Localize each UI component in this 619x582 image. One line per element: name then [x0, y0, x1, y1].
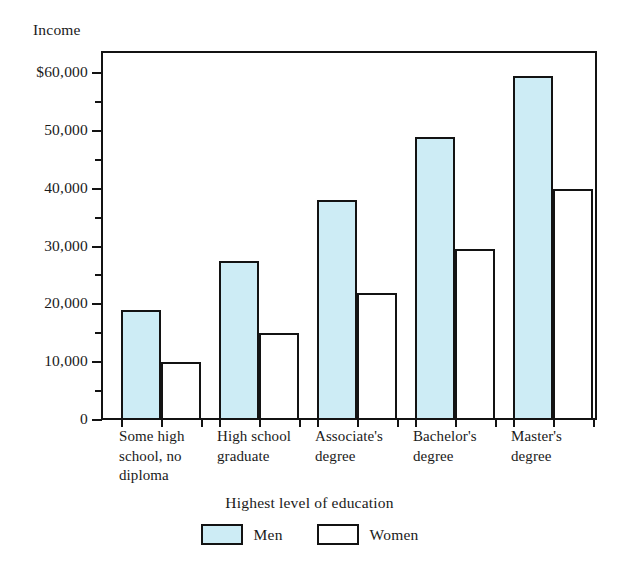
x-axis-category-line: High school	[217, 427, 311, 447]
y-axis-tick-label-text: 10,000	[44, 352, 88, 370]
x-axis-category-line: Some high	[119, 427, 213, 447]
x-axis-tick	[259, 420, 261, 427]
legend-entry-men[interactable]: Men	[201, 524, 283, 545]
x-axis-category-line: diploma	[119, 466, 213, 486]
bar-men-4	[513, 76, 553, 420]
legend-label-women: Women	[370, 526, 419, 544]
x-axis-category-line: Associate's	[315, 427, 409, 447]
x-axis-category-label-0: Some highschool, nodiploma	[119, 427, 213, 486]
x-axis-tick	[415, 420, 417, 427]
x-axis-tick	[121, 420, 123, 427]
bar-men-2	[317, 200, 357, 420]
x-axis-tick	[219, 420, 221, 427]
x-axis-category-label-2: Associate'sdegree	[315, 427, 409, 466]
x-axis-tick	[593, 420, 595, 427]
y-axis-tick-label-text: 40,000	[44, 179, 88, 197]
x-axis-category-line: Bachelor's	[413, 427, 507, 447]
x-axis-tick	[317, 420, 319, 427]
x-axis-tick	[161, 420, 163, 427]
legend-label-men: Men	[254, 526, 283, 544]
x-axis-tick	[397, 420, 399, 427]
chart-legend: MenWomen	[0, 524, 619, 545]
x-axis-tick	[455, 420, 457, 427]
x-axis-category-line: graduate	[217, 447, 311, 467]
x-axis-tick	[201, 420, 203, 427]
x-axis-category-line: Master's	[511, 427, 605, 447]
x-axis-category-line: degree	[315, 447, 409, 467]
x-axis-category-line: school, no	[119, 447, 213, 467]
y-axis-tick-label-text: $60,000	[36, 63, 88, 81]
x-axis-tick	[513, 420, 515, 427]
plot-area	[101, 73, 597, 420]
bar-chart: Income 010,00020,00030,00040,00050,000$6…	[0, 0, 619, 582]
x-axis-tick	[357, 420, 359, 427]
x-axis-category-line: degree	[511, 447, 605, 467]
bar-women-0	[161, 362, 201, 420]
x-axis-tick	[553, 420, 555, 427]
x-axis-category-label-1: High schoolgraduate	[217, 427, 311, 466]
x-axis-title: Highest level of education	[0, 494, 619, 512]
y-axis-title: Income	[33, 21, 81, 39]
bar-men-0	[121, 310, 161, 420]
x-axis-category-label-4: Master'sdegree	[511, 427, 605, 466]
legend-swatch-women	[317, 524, 359, 545]
x-axis-category-line: degree	[413, 447, 507, 467]
x-axis-tick	[299, 420, 301, 427]
y-axis-tick-label-text: 0	[80, 410, 88, 428]
bar-women-4	[553, 189, 593, 420]
y-axis-tick-label-text: 20,000	[44, 294, 88, 312]
y-axis-tick-label-text: 30,000	[44, 237, 88, 255]
x-axis-category-label-3: Bachelor'sdegree	[413, 427, 507, 466]
bar-women-2	[357, 293, 397, 420]
bar-women-3	[455, 249, 495, 420]
legend-swatch-men	[201, 524, 243, 545]
bar-men-3	[415, 137, 455, 420]
bar-women-1	[259, 333, 299, 420]
x-axis-tick	[495, 420, 497, 427]
bar-men-1	[219, 261, 259, 420]
y-axis-tick-label-text: 50,000	[44, 121, 88, 139]
legend-entry-women[interactable]: Women	[317, 524, 419, 545]
